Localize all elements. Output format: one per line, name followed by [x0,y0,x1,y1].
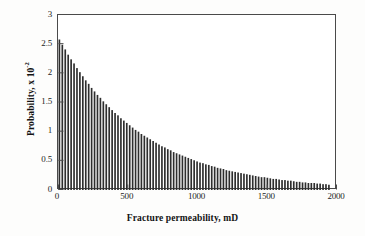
histogram-bar [103,101,105,190]
histogram-bar [275,179,277,190]
histogram-bar [319,184,321,190]
x-tick-label: 500 [107,192,147,201]
histogram-bar [114,113,116,190]
x-tick-label: 1000 [177,192,217,201]
histogram-bar [255,176,257,190]
histogram-bar [105,104,107,190]
histogram-bar [258,177,260,190]
histogram-bar [308,183,310,190]
histogram-bar [100,98,102,190]
histogram-bar [302,182,304,190]
histogram-bar [223,169,225,190]
histogram-bar [240,173,242,190]
histogram-bar [272,179,274,190]
histogram-bar [179,154,181,190]
histogram-bar [91,88,93,190]
histogram-bar [132,128,134,190]
histogram-bar [202,163,204,190]
histogram-bar [161,146,163,190]
y-axis-title: Probability, x 10-2 [26,12,36,187]
histogram-bar [126,123,128,190]
histogram-bar [322,184,324,190]
histogram-bar [261,177,263,190]
histogram-bar [111,110,113,190]
histogram-bar [149,139,151,190]
x-axis-title: Fracture permeability, mD [0,213,365,223]
histogram-bar [290,181,292,190]
histogram-bar [141,134,143,190]
histogram-bar [249,175,251,190]
y-axis-title-exponent: -2 [23,62,30,68]
plot-frame [57,14,336,189]
histogram-bar [73,63,75,190]
y-axis-title-text: Probability, x 10 [26,68,36,136]
histogram-bar [231,171,233,190]
histogram-bar [117,115,119,190]
histogram-bar [220,168,222,190]
histogram-bar [208,165,210,190]
histogram-bar [182,156,184,190]
histogram-bar [246,174,248,190]
histogram-bar [305,182,307,190]
histogram-bar [205,164,207,190]
histogram-bar [61,45,63,190]
histogram-bar [243,174,245,190]
histogram-bar [287,181,289,190]
histogram-bar [311,183,313,190]
histogram-bar [226,170,228,190]
histogram-bar [299,182,301,190]
histogram-bar [278,180,280,191]
histogram-bar [79,72,81,190]
histogram-bar [281,180,283,190]
histogram-bar [155,143,157,190]
histogram-bar [59,40,61,191]
histogram-bar [199,163,201,190]
histogram-bar [269,178,271,190]
histogram-bar [164,147,166,190]
histogram-bar [94,91,96,190]
plot-canvas [58,15,337,190]
histogram-bar [64,49,66,190]
histogram-bar [296,182,298,190]
histogram-bar [187,158,189,190]
histogram-bar [328,185,330,190]
histogram-bar [173,152,175,190]
histogram-bar [97,95,99,190]
histogram-bar [108,107,110,190]
histogram-bar [228,171,230,190]
histogram-bar [237,173,239,191]
histogram-bar [325,184,327,190]
histogram-bar [293,181,295,190]
histogram-bar [144,136,146,190]
histogram-bar [264,177,266,190]
histogram-bar [170,150,172,190]
histogram-bar [234,172,236,190]
x-tick-label: 0 [37,192,77,201]
histogram-bar [129,125,131,190]
histogram-bar [316,184,318,190]
histogram-bar [70,59,72,190]
histogram-bar [193,160,195,190]
histogram-bar [146,138,148,191]
x-tick-label: 1500 [246,192,286,201]
histogram-bar [88,84,90,190]
histogram-bar [82,76,84,190]
histogram-bar [185,157,187,190]
histogram-bar [284,180,286,190]
histogram-bar [217,168,219,190]
figure-container: 00.511.522.53 0500100015002000 Probabili… [0,0,365,236]
histogram-bar [211,166,213,190]
histogram-bar [67,55,69,190]
histogram-bar [176,153,178,190]
histogram-bar [135,130,137,190]
histogram-bar [158,145,160,191]
histogram-bar [85,80,87,190]
histogram-bar [123,121,125,190]
histogram-bar [252,175,254,190]
histogram-bar [167,149,169,190]
histogram-bar [313,183,315,190]
histogram-bar [214,167,216,190]
histogram-bar [120,118,122,190]
histogram-bar [138,132,140,190]
histogram-bar [152,141,154,190]
